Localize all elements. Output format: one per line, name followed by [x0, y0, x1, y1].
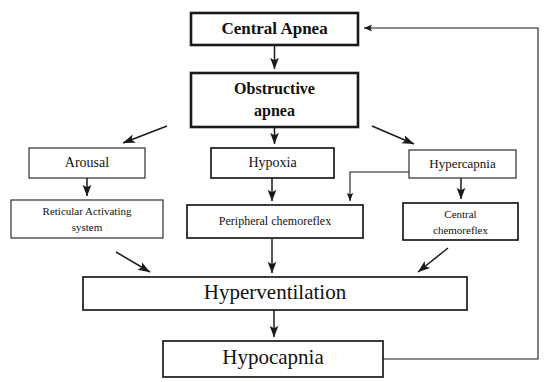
- node-central-apnea[interactable]: Central Apnea: [191, 13, 358, 45]
- node-label-arousal: Arousal: [65, 155, 109, 170]
- node-label-central-chemoreflex-line2: chemoreflex: [433, 224, 488, 236]
- node-label-obstructive-apnea-line1: Obstructive: [234, 80, 315, 97]
- node-hypocapnia[interactable]: Hypocapnia: [163, 341, 383, 377]
- flowchart-canvas: Central Apnea Obstructive apnea Arousal …: [0, 0, 549, 382]
- node-hypercapnia[interactable]: Hypercapnia: [409, 150, 516, 178]
- node-label-peripheral-chemoreflex: Peripheral chemoreflex: [219, 214, 331, 228]
- node-label-hypoxia: Hypoxia: [248, 155, 297, 170]
- node-label-hypocapnia: Hypocapnia: [222, 345, 324, 369]
- node-label-hyperventilation: Hyperventilation: [204, 280, 347, 304]
- edge-obstructive-to-hypercapnia: [372, 126, 414, 144]
- node-label-central-apnea: Central Apnea: [221, 19, 328, 38]
- node-label-obstructive-apnea-line2: apnea: [254, 102, 295, 120]
- node-label-reticular-line2: system: [72, 221, 103, 233]
- edge-reticular-to-hyperventilation: [116, 252, 150, 272]
- flowchart-svg: Central Apnea Obstructive apnea Arousal …: [0, 0, 549, 382]
- node-label-hypercapnia: Hypercapnia: [429, 156, 496, 171]
- node-hyperventilation[interactable]: Hyperventilation: [83, 277, 467, 310]
- edge-obstructive-to-arousal: [123, 126, 167, 143]
- edge-central-chemoreflex-to-hyperventilation: [418, 248, 448, 272]
- node-central-chemoreflex[interactable]: Central chemoreflex: [403, 203, 518, 240]
- node-reticular-activating-system[interactable]: Reticular Activating system: [11, 200, 163, 238]
- node-label-reticular-line1: Reticular Activating: [43, 205, 132, 217]
- node-obstructive-apnea[interactable]: Obstructive apnea: [191, 73, 358, 127]
- node-peripheral-chemoreflex[interactable]: Peripheral chemoreflex: [187, 205, 363, 238]
- node-arousal[interactable]: Arousal: [29, 148, 145, 178]
- node-hypoxia[interactable]: Hypoxia: [211, 148, 334, 178]
- edge-hypercapnia-to-peripheral: [350, 172, 409, 201]
- node-label-central-chemoreflex-line1: Central: [444, 208, 476, 220]
